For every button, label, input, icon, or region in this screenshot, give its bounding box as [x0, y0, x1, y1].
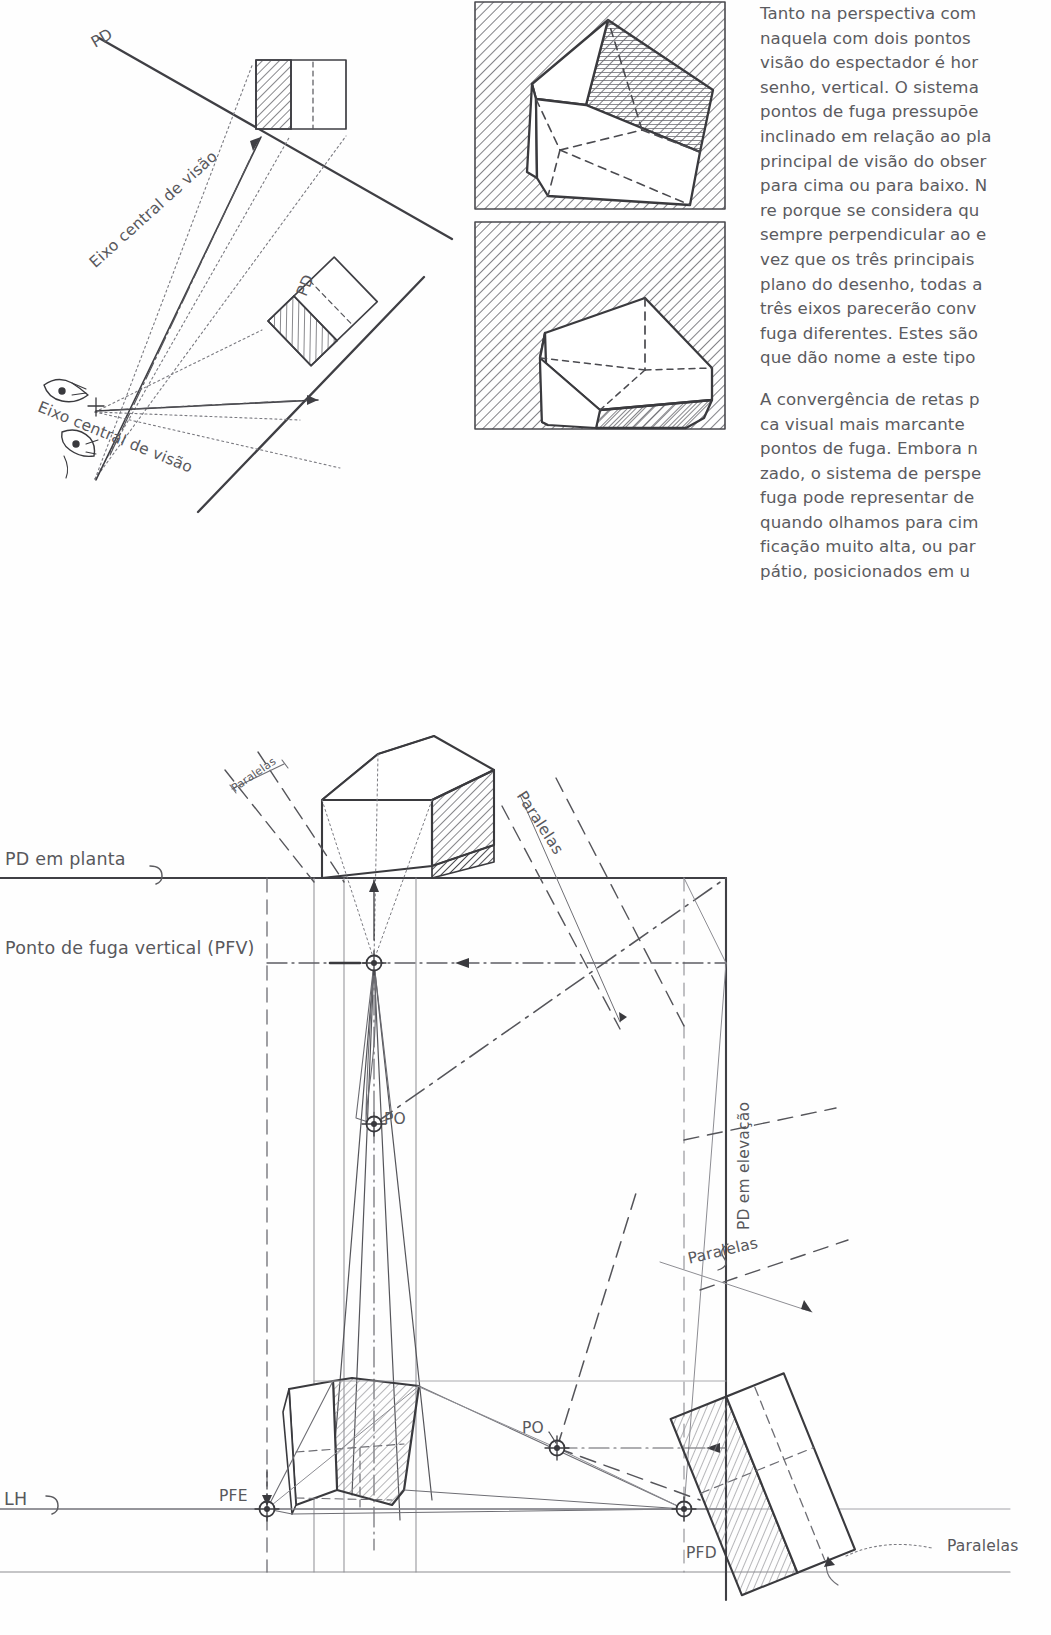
line: fuga pode representar de: [760, 488, 974, 507]
label-pfe: PFE: [219, 1487, 248, 1505]
line: pontos de fuga. Embora n: [760, 439, 978, 458]
line: pátio, posicionados em u: [760, 562, 970, 581]
paragraph-1: Tanto na perspectiva com naquela com doi…: [760, 2, 1051, 371]
label-po-planta: PO: [522, 1419, 544, 1437]
line: plano do desenho, todas a: [760, 275, 983, 294]
main-construction-group: [0, 736, 1010, 1600]
scanned-page: Tanto na perspectiva com naquela com doi…: [0, 0, 1051, 1635]
line: ca visual mais marcante: [760, 415, 965, 434]
line: Tanto na perspectiva com: [760, 4, 976, 23]
label-pd-em-elevacao: PD em elevação: [735, 1102, 753, 1230]
perspective-solid: [283, 1378, 419, 1514]
line: sempre perpendicular ao e: [760, 225, 986, 244]
line: principal de visão do obser: [760, 152, 987, 171]
label-pd-em-planta: PD em planta: [5, 849, 126, 869]
line: que dão nome a este tipo: [760, 348, 975, 367]
line: vez que os três principais: [760, 250, 975, 269]
line: pontos de fuga pressupõe: [760, 102, 978, 121]
label-paralelas-bottom-right: Paralelas: [947, 1537, 1019, 1555]
line: visão do espectador é hor: [760, 53, 978, 72]
label-pfd: PFD: [686, 1544, 717, 1562]
label-po-elevacao: PO: [384, 1110, 406, 1128]
line: A convergência de retas p: [760, 390, 980, 409]
line: quando olhamos para cim: [760, 513, 979, 532]
label-ponto-de-fuga-vertical: Ponto de fuga vertical (PFV): [5, 938, 255, 958]
label-lh: LH: [4, 1489, 27, 1509]
plan-house: [322, 736, 494, 878]
paragraph-2: A convergência de retas p ca visual mais…: [760, 388, 1051, 585]
line: zado, o sistema de perspe: [760, 464, 981, 483]
body-text-column: Tanto na perspectiva com naquela com doi…: [760, 2, 1051, 602]
line: naquela com dois pontos: [760, 29, 971, 48]
line: três eixos parecerão conv: [760, 299, 977, 318]
cube-panel-bottom: [475, 222, 725, 429]
line: re porque se considera qu: [760, 201, 979, 220]
cube-panel-top: [475, 2, 725, 209]
line: senho, vertical. O sistema: [760, 78, 979, 97]
line: ficação muito alta, ou par: [760, 537, 976, 556]
line: inclinado em relação ao pla: [760, 127, 992, 146]
line: para cima ou para baixo. N: [760, 176, 987, 195]
line: fuga diferentes. Estes são: [760, 324, 978, 343]
